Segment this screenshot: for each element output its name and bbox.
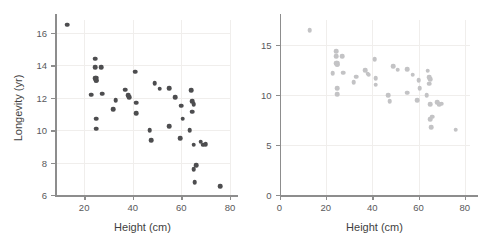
data-point	[191, 102, 196, 107]
data-point	[340, 54, 345, 59]
data-point	[93, 57, 98, 62]
x-axis-tick-label: 80	[460, 202, 471, 213]
x-axis-title-left: Height (cm)	[114, 221, 171, 233]
y-axis-tick	[51, 195, 55, 196]
gridline-horizontal	[280, 45, 470, 46]
gridline-horizontal	[55, 130, 230, 131]
gridline-horizontal	[55, 163, 230, 164]
y-axis-tick-label: 8	[42, 157, 47, 168]
y-axis-tick-label: 10	[261, 90, 272, 101]
data-point	[113, 98, 118, 103]
data-point	[134, 100, 139, 105]
gridline-vertical	[326, 20, 327, 195]
y-axis-title-left: Longevity (yr)	[12, 74, 24, 141]
data-point	[123, 87, 128, 92]
x-axis-tick-label: 20	[321, 202, 332, 213]
data-point	[134, 111, 139, 116]
data-point	[395, 67, 400, 72]
gridline-vertical	[465, 20, 466, 195]
y-axis-tick-label: 15	[261, 40, 272, 51]
y-axis-tick	[276, 145, 280, 146]
scatter-figure: 681012141620406080 Longevity (yr) Height…	[0, 0, 483, 250]
x-axis-tick-label: 40	[367, 202, 378, 213]
data-point	[366, 72, 371, 77]
data-point	[190, 109, 195, 114]
data-point	[192, 180, 197, 185]
data-point	[405, 90, 410, 95]
y-axis-tick	[51, 65, 55, 66]
gridline-vertical	[419, 20, 420, 195]
y-axis-tick-label: 10	[36, 125, 47, 136]
x-axis-tick	[230, 196, 231, 200]
x-axis-tick-label: 60	[176, 202, 187, 213]
data-point	[429, 125, 434, 130]
gridline-vertical	[372, 20, 373, 195]
data-point	[188, 128, 193, 133]
y-axis-tick	[51, 163, 55, 164]
x-axis-tick-label: 40	[127, 202, 138, 213]
data-point	[191, 167, 196, 172]
data-point	[410, 72, 415, 77]
x-axis-tick	[326, 196, 327, 200]
y-axis-tick-label: 6	[42, 190, 47, 201]
data-point	[425, 68, 430, 73]
y-axis-tick-label: 0	[266, 190, 271, 201]
data-point	[218, 184, 223, 189]
chart-panel-left: 681012141620406080 Longevity (yr) Height…	[0, 0, 242, 250]
data-point	[334, 49, 339, 54]
data-point	[373, 82, 378, 87]
gridline-vertical	[230, 20, 231, 195]
x-axis-tick-label: 20	[79, 202, 90, 213]
y-axis-tick-label: 5	[266, 140, 271, 151]
data-point	[178, 136, 183, 141]
data-point	[439, 101, 444, 106]
gridline-horizontal	[55, 65, 230, 66]
data-point	[427, 81, 432, 86]
data-point	[179, 104, 184, 109]
y-axis-line	[280, 14, 282, 195]
data-point	[373, 76, 378, 81]
data-point	[100, 91, 105, 96]
data-point	[453, 127, 458, 132]
x-axis-tick	[84, 196, 85, 200]
data-point	[89, 92, 94, 97]
data-point	[416, 78, 421, 83]
x-axis-tick	[181, 196, 182, 200]
plot-area-right: 051015020406080	[280, 20, 470, 195]
data-point	[180, 117, 185, 122]
data-point	[415, 98, 420, 103]
data-point	[335, 86, 340, 91]
data-point	[424, 93, 429, 98]
x-axis-tick	[280, 196, 281, 200]
data-point	[173, 95, 178, 100]
data-point	[341, 70, 346, 75]
data-point	[335, 92, 340, 97]
chart-panel-right: 051015020406080 Height (cm)	[242, 0, 483, 250]
data-point	[111, 107, 116, 112]
gridline-vertical	[84, 20, 85, 195]
x-axis-line	[55, 195, 238, 197]
data-point	[152, 81, 157, 86]
data-point	[203, 142, 208, 147]
y-axis-tick	[51, 33, 55, 34]
y-axis-tick	[51, 130, 55, 131]
y-axis-line	[55, 14, 57, 195]
gridline-horizontal	[55, 33, 230, 34]
data-point	[372, 57, 377, 62]
y-axis-tick-label: 14	[36, 60, 47, 71]
data-point	[330, 71, 335, 76]
data-point	[167, 124, 172, 129]
y-axis-tick-label: 12	[36, 92, 47, 103]
data-point	[428, 77, 433, 82]
x-axis-tick	[419, 196, 420, 200]
data-point	[386, 93, 391, 98]
data-point	[133, 70, 138, 75]
gridline-horizontal	[280, 145, 470, 146]
data-point	[94, 78, 99, 83]
y-axis-tick	[51, 98, 55, 99]
x-axis-line	[280, 195, 478, 197]
x-axis-tick	[133, 196, 134, 200]
data-point	[65, 23, 70, 28]
data-point	[191, 142, 196, 147]
data-point	[334, 54, 339, 59]
